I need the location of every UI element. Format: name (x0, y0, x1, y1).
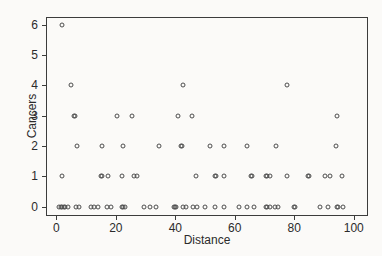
data-point (222, 144, 227, 149)
data-point (341, 204, 346, 209)
data-point (134, 174, 139, 179)
data-point (203, 204, 208, 209)
data-point (335, 113, 340, 118)
data-point (154, 204, 159, 209)
data-point (244, 144, 249, 149)
data-point (106, 174, 111, 179)
data-point (121, 144, 126, 149)
plot-area (46, 17, 368, 216)
data-point (156, 144, 161, 149)
data-point (96, 204, 101, 209)
data-point (207, 144, 212, 149)
x-tick-label: 80 (288, 222, 301, 234)
data-point (284, 174, 289, 179)
data-point (326, 204, 331, 209)
x-tick-label: 100 (344, 222, 364, 234)
data-point (76, 204, 81, 209)
data-point (268, 174, 273, 179)
data-point (275, 204, 280, 209)
y-axis-tick (42, 176, 46, 177)
data-point (119, 174, 124, 179)
data-point (115, 113, 120, 118)
data-point (73, 113, 78, 118)
y-tick-label: 0 (31, 201, 38, 213)
data-point (306, 174, 311, 179)
data-point (222, 204, 227, 209)
x-axis-tick (56, 216, 57, 220)
y-tick-label: 2 (31, 140, 38, 152)
data-point (109, 204, 114, 209)
data-point (237, 204, 242, 209)
data-point (99, 174, 104, 179)
data-point (284, 83, 289, 88)
y-axis-title: Cancers (26, 94, 38, 139)
x-tick-label: 40 (169, 222, 182, 234)
y-tick-label: 4 (31, 79, 38, 91)
y-tick-label: 6 (31, 19, 38, 31)
data-point (66, 204, 71, 209)
data-point (183, 204, 188, 209)
data-point (333, 144, 338, 149)
data-point (60, 22, 65, 27)
y-axis-tick (42, 55, 46, 56)
data-point (60, 174, 65, 179)
data-point (327, 174, 332, 179)
data-point (274, 144, 279, 149)
y-axis-tick (42, 25, 46, 26)
data-point (213, 204, 218, 209)
y-tick-label: 5 (31, 49, 38, 61)
x-axis-title: Distance (184, 234, 231, 246)
data-point (142, 204, 147, 209)
data-point (317, 204, 322, 209)
x-axis-tick (175, 216, 176, 220)
data-point (75, 144, 80, 149)
data-point (214, 174, 219, 179)
data-point (244, 204, 249, 209)
data-point (189, 113, 194, 118)
data-point (130, 113, 135, 118)
data-point (339, 174, 344, 179)
y-axis-tick (42, 207, 46, 208)
data-point (180, 83, 185, 88)
data-point (222, 174, 227, 179)
x-axis-tick (354, 216, 355, 220)
data-point (69, 83, 74, 88)
x-axis-tick (235, 216, 236, 220)
y-axis-tick (42, 146, 46, 147)
x-tick-label: 0 (53, 222, 60, 234)
data-point (180, 144, 185, 149)
data-point (148, 204, 153, 209)
scatter-plot-figure: 0204060801000123456 Cancers Distance (0, 0, 382, 256)
y-axis-tick (42, 116, 46, 117)
data-point (100, 144, 105, 149)
x-axis-tick (116, 216, 117, 220)
x-axis-tick (294, 216, 295, 220)
data-point (122, 204, 127, 209)
y-axis-tick (42, 85, 46, 86)
data-point (252, 204, 257, 209)
data-point (293, 204, 298, 209)
data-point (195, 204, 200, 209)
data-point (250, 174, 255, 179)
data-point (174, 204, 179, 209)
y-tick-label: 1 (31, 170, 38, 182)
data-point (194, 174, 199, 179)
x-tick-label: 20 (109, 222, 122, 234)
data-point (176, 113, 181, 118)
